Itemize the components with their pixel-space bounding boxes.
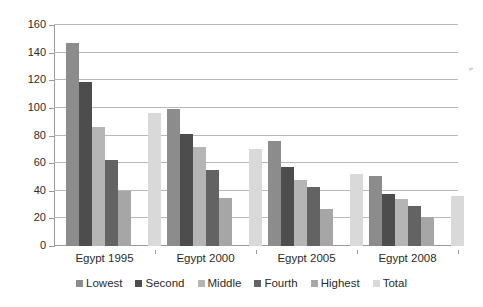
legend-label: Second <box>145 277 184 289</box>
bar-middle <box>294 180 307 246</box>
bar-second <box>281 167 294 246</box>
y-tick-mark <box>49 136 54 137</box>
bar-chart: 020406080100120140160 Egypt 1995Egypt 20… <box>0 0 483 307</box>
y-tick-mark <box>49 108 54 109</box>
bar-middle <box>395 199 408 246</box>
x-tick-mark <box>357 250 358 254</box>
bar-group <box>155 25 256 246</box>
bar-highest <box>320 209 333 246</box>
legend-item-highest[interactable]: Highest <box>311 277 360 289</box>
y-tick-mark <box>49 25 54 26</box>
bar-total <box>451 196 464 246</box>
bar-highest <box>118 191 131 246</box>
x-tick-label: Egypt 2000 <box>155 250 256 266</box>
bar-highest <box>421 217 434 246</box>
bar-lowest <box>66 43 79 246</box>
x-axis-category-labels: Egypt 1995Egypt 2000Egypt 2005Egypt 2008 <box>54 250 458 268</box>
bar-lowest <box>268 141 281 246</box>
legend-swatch-icon <box>373 280 380 287</box>
scan-artifact <box>469 67 473 70</box>
y-tick-label: 140 <box>2 47 46 58</box>
bar-second <box>180 134 193 246</box>
bar-fourth <box>408 206 421 246</box>
y-tick-mark <box>49 191 54 192</box>
y-tick-label: 80 <box>2 130 46 141</box>
legend-item-middle[interactable]: Middle <box>198 277 242 289</box>
bar-group <box>256 25 357 246</box>
y-tick-label: 20 <box>2 212 46 223</box>
bar-fourth <box>105 160 118 246</box>
bar-group <box>54 25 155 246</box>
x-tick-label: Egypt 2008 <box>357 250 458 266</box>
legend-item-total[interactable]: Total <box>373 277 407 289</box>
y-tick-mark <box>49 218 54 219</box>
bar-second <box>79 82 92 246</box>
y-tick-label: 60 <box>2 157 46 168</box>
y-tick-label: 40 <box>2 185 46 196</box>
x-tick-mark <box>458 250 459 254</box>
legend-item-fourth[interactable]: Fourth <box>254 277 297 289</box>
y-tick-mark <box>49 80 54 81</box>
y-tick-label: 120 <box>2 74 46 85</box>
legend-swatch-icon <box>76 280 83 287</box>
x-tick-label: Egypt 1995 <box>54 250 155 266</box>
legend-label: Middle <box>208 277 242 289</box>
bar-fourth <box>206 170 219 246</box>
legend-item-second[interactable]: Second <box>135 277 184 289</box>
y-tick-label: 160 <box>2 19 46 30</box>
bar-middle <box>193 147 206 246</box>
x-tick-mark <box>256 250 257 254</box>
y-tick-label: 0 <box>2 240 46 251</box>
y-tick-label: 100 <box>2 102 46 113</box>
y-tick-mark <box>49 246 54 247</box>
legend-item-lowest[interactable]: Lowest <box>76 277 122 289</box>
legend-label: Lowest <box>86 277 122 289</box>
y-tick-mark <box>49 163 54 164</box>
legend-swatch-icon <box>311 280 318 287</box>
bar-second <box>382 194 395 246</box>
bar-lowest <box>369 176 382 246</box>
legend-swatch-icon <box>135 280 142 287</box>
x-tick-label: Egypt 2005 <box>256 250 357 266</box>
bar-fourth <box>307 187 320 246</box>
legend-label: Highest <box>321 277 360 289</box>
legend-swatch-icon <box>198 280 205 287</box>
plot-area <box>54 25 458 246</box>
legend-swatch-icon <box>254 280 261 287</box>
legend-label: Total <box>383 277 407 289</box>
bar-middle <box>92 127 105 246</box>
x-tick-mark <box>155 250 156 254</box>
y-tick-mark <box>49 53 54 54</box>
y-axis-labels: 020406080100120140160 <box>0 0 46 307</box>
chart-legend: LowestSecondMiddleFourthHighestTotal <box>0 277 483 289</box>
legend-label: Fourth <box>264 277 297 289</box>
bar-group <box>357 25 458 246</box>
bar-lowest <box>167 109 180 246</box>
bar-highest <box>219 198 232 246</box>
